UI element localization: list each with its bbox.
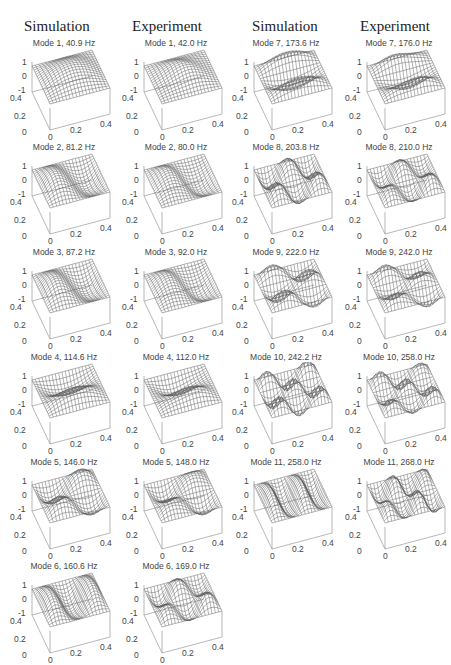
plot-title: Mode 2, 80.0 Hz	[122, 142, 230, 152]
svg-text:0.4: 0.4	[100, 223, 112, 233]
surface-plot: 10-10.40.2000.20.4	[232, 152, 344, 246]
plot-panel-e7: Mode 7, 176.0 Hz10-10.40.2000.20.4	[345, 38, 451, 142]
svg-text:0.2: 0.2	[126, 425, 138, 435]
svg-text:0.4: 0.4	[232, 512, 244, 522]
surface-plot: 10-10.40.2000.20.4	[122, 48, 234, 142]
svg-text:0.2: 0.2	[236, 215, 248, 225]
svg-text:0.4: 0.4	[100, 328, 112, 338]
svg-text:0.2: 0.2	[405, 229, 417, 239]
svg-text:0: 0	[383, 236, 388, 246]
plot-panel-e2: Mode 2, 80.0 Hz10-10.40.2000.20.4	[122, 142, 232, 246]
plot-title: Mode 11, 258.0 Hz	[232, 457, 340, 467]
plot-panel-s6: Mode 6, 160.6 Hz10-10.40.2000.20.4	[10, 561, 120, 665]
svg-text:0.4: 0.4	[435, 538, 447, 548]
plot-panel-e4: Mode 4, 112.0 Hz10-10.40.2000.20.4	[122, 352, 232, 456]
svg-text:0.2: 0.2	[70, 544, 82, 554]
svg-text:0: 0	[160, 446, 165, 456]
svg-text:0.2: 0.2	[292, 125, 304, 135]
plot-title: Mode 4, 114.6 Hz	[10, 352, 118, 362]
svg-text:0: 0	[48, 341, 53, 351]
svg-text:0.4: 0.4	[322, 433, 334, 443]
svg-text:0.2: 0.2	[182, 648, 194, 658]
plot-panel-s5: Mode 5, 146.0 Hz10-10.40.2000.20.4	[10, 457, 120, 561]
svg-text:0.2: 0.2	[182, 125, 194, 135]
plot-title: Mode 7, 173.6 Hz	[232, 38, 340, 48]
svg-text:0: 0	[357, 546, 362, 556]
plot-title: Mode 1, 42.0 Hz	[122, 38, 230, 48]
svg-text:1: 1	[22, 161, 27, 171]
plot-panel-s7: Mode 7, 173.6 Hz10-10.40.2000.20.4	[232, 38, 342, 142]
svg-text:0: 0	[22, 231, 27, 241]
svg-text:0.4: 0.4	[122, 197, 134, 207]
svg-text:0: 0	[134, 231, 139, 241]
svg-text:0: 0	[357, 385, 362, 395]
svg-text:0: 0	[244, 231, 249, 241]
plot-panel-e3: Mode 3, 92.0 Hz10-10.40.2000.20.4	[122, 247, 232, 351]
header-simulation-right: Simulation	[252, 18, 318, 35]
svg-text:0: 0	[160, 341, 165, 351]
plot-title: Mode 7, 176.0 Hz	[345, 38, 451, 48]
svg-text:0: 0	[244, 127, 249, 137]
svg-text:0.2: 0.2	[349, 530, 361, 540]
svg-text:0: 0	[22, 71, 27, 81]
svg-text:1: 1	[134, 476, 139, 486]
svg-text:0: 0	[134, 490, 139, 500]
svg-text:0.2: 0.2	[70, 229, 82, 239]
svg-text:1: 1	[357, 161, 362, 171]
svg-text:0.2: 0.2	[70, 125, 82, 135]
surface-plot: 10-10.40.2000.20.4	[232, 467, 344, 561]
plot-title: Mode 11, 268.0 Hz	[345, 457, 451, 467]
svg-text:0.4: 0.4	[10, 512, 22, 522]
svg-text:0.4: 0.4	[122, 93, 134, 103]
plot-panel-s8: Mode 8, 203.8 Hz10-10.40.2000.20.4	[232, 142, 342, 246]
svg-text:0.2: 0.2	[349, 320, 361, 330]
svg-text:0.4: 0.4	[322, 119, 334, 129]
plot-panel-s4: Mode 4, 114.6 Hz10-10.40.2000.20.4	[10, 352, 120, 456]
svg-text:0.2: 0.2	[182, 229, 194, 239]
plot-panel-e8: Mode 8, 210.0 Hz10-10.40.2000.20.4	[345, 142, 451, 246]
svg-text:0: 0	[244, 71, 249, 81]
svg-text:1: 1	[22, 476, 27, 486]
svg-text:1: 1	[244, 266, 249, 276]
surface-plot: 10-10.40.2000.20.4	[345, 152, 451, 246]
svg-text:0: 0	[134, 441, 139, 451]
svg-text:0: 0	[160, 655, 165, 665]
surface-plot: 10-10.40.2000.20.4	[122, 571, 234, 665]
svg-text:0: 0	[383, 446, 388, 456]
svg-text:0.4: 0.4	[435, 328, 447, 338]
svg-text:0: 0	[134, 280, 139, 290]
svg-text:0: 0	[22, 650, 27, 660]
svg-text:0.2: 0.2	[292, 229, 304, 239]
surface-plot: 10-10.40.2000.20.4	[345, 257, 451, 351]
svg-text:1: 1	[22, 57, 27, 67]
svg-text:0.2: 0.2	[14, 320, 26, 330]
plot-title: Mode 3, 87.2 Hz	[10, 247, 118, 257]
svg-text:0.4: 0.4	[232, 302, 244, 312]
svg-text:0.2: 0.2	[182, 439, 194, 449]
svg-text:0: 0	[270, 341, 275, 351]
surface-plot: 10-10.40.2000.20.4	[232, 362, 344, 456]
svg-text:0.4: 0.4	[122, 302, 134, 312]
svg-text:0.2: 0.2	[14, 215, 26, 225]
plot-panel-s9: Mode 9, 222.0 Hz10-10.40.2000.20.4	[232, 247, 342, 351]
plot-panel-s2: Mode 2, 81.2 Hz10-10.40.2000.20.4	[10, 142, 120, 246]
svg-text:0: 0	[357, 490, 362, 500]
plot-panel-s3: Mode 3, 87.2 Hz10-10.40.2000.20.4	[10, 247, 120, 351]
surface-plot: 10-10.40.2000.20.4	[345, 467, 451, 561]
svg-text:0: 0	[357, 127, 362, 137]
svg-text:0.4: 0.4	[435, 433, 447, 443]
svg-text:0.2: 0.2	[405, 544, 417, 554]
svg-text:0: 0	[270, 551, 275, 561]
svg-text:0.4: 0.4	[435, 223, 447, 233]
svg-text:0.2: 0.2	[126, 111, 138, 121]
svg-text:1: 1	[22, 580, 27, 590]
plot-title: Mode 9, 222.0 Hz	[232, 247, 340, 257]
svg-text:0.2: 0.2	[126, 530, 138, 540]
svg-text:0.4: 0.4	[122, 512, 134, 522]
svg-text:0.4: 0.4	[212, 119, 224, 129]
surface-plot: 10-10.40.2000.20.4	[122, 257, 234, 351]
svg-text:0.2: 0.2	[349, 215, 361, 225]
svg-text:0.4: 0.4	[345, 93, 357, 103]
surface-plot: 10-10.40.2000.20.4	[10, 571, 122, 665]
svg-text:1: 1	[134, 57, 139, 67]
